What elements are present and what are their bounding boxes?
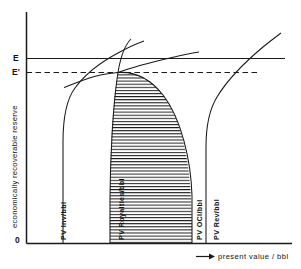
axis-origin-label: 0 [15, 236, 20, 245]
x-axis-title: present value / bbl [218, 253, 289, 261]
x-axis-arrow-icon [196, 254, 215, 260]
axis-tag-E: E [13, 54, 19, 63]
axis-tag-E-prime: E' [12, 68, 20, 77]
chart-canvas [0, 0, 301, 269]
figure-container: E E' 0 economically recoverable reserve … [0, 0, 301, 269]
curve-label-pv-rev-bbl: PV Rev/bbl [213, 199, 220, 240]
curve-label-pv-royalties-bbl: PV Royalties/bbl [118, 178, 125, 240]
y-axis-title: economically recoverable reserve [11, 105, 19, 228]
curve-label-pv-inv-bbl: PV Inv/bbl [60, 202, 67, 240]
curve-e-tie-segment [118, 52, 199, 73]
curve-label-pv-oci-bbl: PV OCI/bbl [196, 199, 203, 240]
